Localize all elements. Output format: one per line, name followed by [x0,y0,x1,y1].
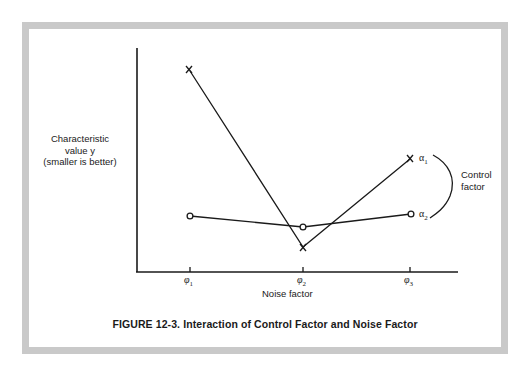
marker-x-alpha1-p2 [300,244,306,251]
x-tick-label-0-sub: 1 [190,280,194,288]
x-tick-label-2-sub: 3 [410,280,414,288]
marker-x-alpha1-p3 [407,155,413,162]
series-label-alpha2: α2 [419,208,428,222]
x-axis-label: Noise factor [262,288,313,299]
series-line-alpha1 [190,71,410,247]
x-tick-label-0: φ1 [184,274,193,288]
marker-circle-alpha2-p3 [408,211,414,217]
control-factor-line2: factor [461,181,485,192]
y-axis-label-line1: Characteristic [51,133,109,144]
figure-caption: FIGURE 12-3. Interaction of Control Fact… [0,318,530,330]
series-label-alpha2-sub: 2 [424,214,428,222]
series-label-alpha1-sub: 1 [424,158,428,166]
figure-root: Characteristic value y (smaller is bette… [0,0,530,376]
y-axis-label-line3: (smaller is better) [43,156,116,167]
series-label-alpha1: α1 [419,152,428,166]
x-tick-label-1: φ2 [297,274,306,288]
control-factor-line1: Control [461,169,492,180]
y-axis-label-line2: value y [65,145,95,156]
control-factor-annotation: Control factor [461,169,505,192]
x-tick-label-2: φ3 [404,274,413,288]
y-axis-label: Characteristic value y (smaller is bette… [28,133,132,168]
marker-circle-alpha2-p2 [300,224,306,230]
x-tick-label-1-sub: 2 [303,280,307,288]
marker-circle-alpha2-p1 [187,213,193,219]
control-factor-brace-icon [430,155,452,218]
marker-x-alpha1-p1 [186,66,192,73]
